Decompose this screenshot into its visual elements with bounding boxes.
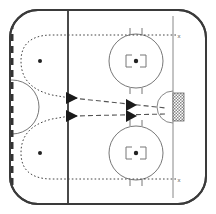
- faceoff-dot-top-right: [134, 59, 138, 63]
- marker-x-bottom: x: [178, 177, 181, 183]
- hockey-rink-diagram: x x: [0, 0, 216, 214]
- neutral-zone-dot-bottom: [38, 151, 42, 155]
- goal-net: [173, 93, 184, 121]
- marker-x-top: x: [178, 33, 181, 39]
- faceoff-dot-bottom-right: [134, 151, 138, 155]
- rink-canvas: x x: [0, 0, 216, 214]
- neutral-zone-dot-top: [38, 59, 42, 63]
